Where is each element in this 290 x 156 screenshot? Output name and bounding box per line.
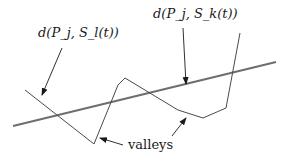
left-distance-label: d(P_j, S_l(t)) (38, 26, 119, 39)
right-label-arrow (183, 28, 186, 84)
reference-line (13, 62, 276, 126)
valleys-label: valleys (128, 138, 173, 151)
diagram-canvas (0, 0, 290, 156)
left-label-arrow (42, 48, 62, 95)
valleys-arrow-left (100, 138, 123, 145)
right-distance-label: d(P_j, S_k(t)) (153, 7, 238, 20)
valleys-arrow-right (172, 118, 186, 136)
zigzag-curve (25, 33, 240, 144)
